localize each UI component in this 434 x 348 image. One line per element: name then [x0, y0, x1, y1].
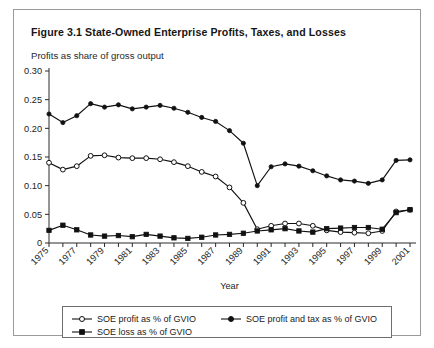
data-point: [311, 230, 315, 234]
series-1: [47, 153, 413, 236]
data-point: [408, 158, 412, 162]
legend-row-2: SOE loss as % of GVIO: [71, 325, 192, 338]
data-point: [144, 156, 149, 161]
legend-label-soe-loss: SOE loss as % of GVIO: [97, 327, 192, 337]
y-tick-label: 0.10: [24, 181, 42, 191]
data-point: [394, 210, 398, 214]
data-point: [311, 169, 315, 173]
data-point: [394, 158, 398, 162]
data-point: [352, 225, 356, 229]
y-tick-label: 0.30: [24, 66, 42, 76]
data-point: [283, 221, 288, 226]
x-tick-label: 1985: [168, 245, 190, 267]
x-tick-label: 1997: [334, 245, 356, 267]
data-point: [60, 167, 65, 172]
data-point: [227, 232, 231, 236]
plot-area: 00.050.100.150.200.250.30197519771979198…: [14, 10, 422, 337]
data-point: [352, 179, 356, 183]
data-point: [88, 233, 92, 237]
data-point: [88, 153, 93, 158]
data-point: [366, 225, 370, 229]
x-axis-title: Year: [220, 281, 239, 291]
data-point: [200, 115, 204, 119]
data-point: [255, 184, 259, 188]
data-point: [158, 157, 163, 162]
y-tick-label: 0.05: [24, 210, 42, 220]
data-point: [338, 226, 342, 230]
data-point: [74, 164, 79, 169]
filled-circle-marker-icon: [220, 314, 242, 324]
data-point: [47, 228, 51, 232]
data-point: [324, 226, 328, 230]
data-point: [61, 223, 65, 227]
data-point: [283, 162, 287, 166]
legend-item-soe-loss[interactable]: SOE loss as % of GVIO: [71, 327, 192, 337]
data-point: [227, 185, 232, 190]
data-point: [172, 160, 177, 165]
data-point: [200, 235, 204, 239]
data-point: [408, 208, 412, 212]
data-point: [213, 233, 217, 237]
data-point: [102, 234, 106, 238]
data-point: [269, 165, 273, 169]
data-point: [214, 119, 218, 123]
data-point: [310, 223, 315, 228]
y-tick-label: 0.15: [24, 152, 42, 162]
data-point: [144, 105, 148, 109]
data-point: [199, 170, 204, 175]
x-tick-label: 1983: [140, 245, 162, 267]
data-point: [380, 227, 384, 231]
data-point: [297, 229, 301, 233]
data-point: [130, 234, 134, 238]
x-tick-label: 1999: [362, 245, 384, 267]
data-point: [241, 200, 246, 205]
x-tick-label: 1975: [29, 245, 51, 267]
data-point: [47, 160, 52, 165]
legend-row-1: SOE profit as % of GVIO SOE profit and t…: [71, 312, 377, 325]
data-point: [75, 114, 79, 118]
data-point: [297, 164, 301, 168]
x-tick-label: 1977: [57, 245, 79, 267]
x-tick-label: 1989: [223, 245, 245, 267]
x-tick-label: 1987: [195, 245, 217, 267]
y-tick-label: 0.25: [24, 95, 42, 105]
data-point: [366, 231, 371, 236]
x-tick-label: 1979: [84, 245, 106, 267]
x-tick-label: 1991: [251, 245, 273, 267]
chart-legend: SOE profit as % of GVIO SOE profit and t…: [62, 306, 392, 338]
data-point: [116, 103, 120, 107]
data-point: [102, 153, 107, 158]
x-tick-label: 1995: [307, 245, 329, 267]
series-0: [47, 102, 412, 188]
data-point: [352, 230, 357, 235]
data-point: [269, 228, 273, 232]
chart-canvas: 00.050.100.150.200.250.30197519771979198…: [14, 10, 422, 337]
data-point: [227, 129, 231, 133]
data-point: [241, 231, 245, 235]
data-point: [61, 121, 65, 125]
data-point: [213, 174, 218, 179]
data-point: [255, 229, 259, 233]
series-line: [49, 104, 410, 186]
series-2: [47, 208, 412, 241]
x-tick-label: 1981: [112, 245, 134, 267]
legend-item-soe-profit-and-tax[interactable]: SOE profit and tax as % of GVIO: [220, 314, 377, 324]
data-point: [325, 174, 329, 178]
data-point: [116, 233, 120, 237]
data-point: [186, 110, 190, 114]
data-point: [186, 236, 190, 240]
figure-frame: Figure 3.1 State-Owned Enterprise Profit…: [13, 9, 421, 336]
x-tick-label: 1993: [279, 245, 301, 267]
data-point: [172, 106, 176, 110]
legend-item-soe-profit[interactable]: SOE profit as % of GVIO: [71, 314, 196, 324]
data-point: [185, 164, 190, 169]
data-point: [283, 226, 287, 230]
data-point: [338, 178, 342, 182]
data-point: [89, 102, 93, 106]
data-point: [366, 181, 370, 185]
data-point: [297, 221, 302, 226]
data-point: [47, 112, 51, 116]
filled-square-marker-icon: [71, 327, 93, 337]
data-point: [116, 155, 121, 160]
series-line: [49, 155, 410, 233]
